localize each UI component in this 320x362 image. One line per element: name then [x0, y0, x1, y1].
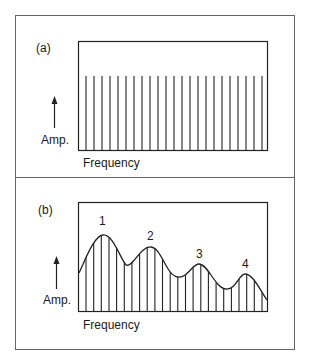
panel-a-plot-box [79, 42, 268, 151]
panel-a-y-axis-label: Amp. [41, 133, 69, 147]
panel-b-spectral-lines [86, 235, 262, 311]
panel-b-y-axis-label: Amp. [43, 293, 71, 307]
panel-a-label: (a) [36, 41, 51, 55]
panel-a-amp-arrow-icon [52, 96, 58, 128]
panel-a [52, 42, 268, 151]
panel-b-peak-2: 2 [147, 229, 154, 243]
panel-b [54, 203, 268, 312]
panel-b-peak-1: 1 [99, 214, 106, 228]
panel-a-spectral-lines [86, 76, 262, 150]
panel-a-x-axis-label: Frequency [83, 156, 140, 170]
panel-b-amp-arrow-icon [54, 256, 60, 289]
panel-b-peak-4: 4 [242, 257, 249, 271]
panel-b-label: (b) [38, 203, 53, 217]
panel-b-x-axis-label: Frequency [83, 318, 140, 332]
panel-b-peak-3: 3 [196, 247, 203, 261]
